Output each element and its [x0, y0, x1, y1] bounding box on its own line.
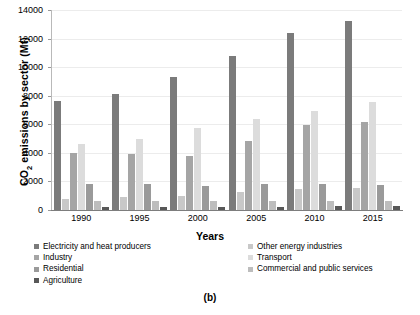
y-axis-tick-label: 12000 — [18, 34, 43, 44]
y-axis-tick-label: 6000 — [23, 119, 43, 129]
bar — [353, 188, 360, 210]
bar-group — [52, 10, 110, 210]
figure-caption: (b) — [0, 292, 420, 303]
bar — [128, 154, 135, 210]
bar — [178, 196, 185, 210]
bar — [78, 144, 85, 210]
legend-item-label: Transport — [257, 252, 292, 263]
legend-item: Industry — [34, 252, 248, 263]
x-axis-tick-label: 1995 — [110, 213, 168, 223]
y-axis-tick-label: 4000 — [23, 148, 43, 158]
x-axis-tick-label: 2005 — [227, 213, 285, 223]
bar — [112, 94, 119, 210]
bar — [377, 185, 384, 210]
bar — [170, 77, 177, 210]
bar — [393, 206, 400, 210]
bar — [120, 197, 127, 210]
legend-item-label: Agriculture — [43, 275, 82, 286]
bar — [229, 56, 236, 210]
legend-item: Electricity and heat producers — [34, 241, 248, 252]
x-axis-tick-label: 1990 — [52, 213, 110, 223]
bar — [86, 184, 93, 210]
legend-item-label: Industry — [43, 252, 72, 263]
legend-item: Agriculture — [34, 275, 248, 286]
bar — [303, 125, 310, 210]
y-axis-tick-label: 14000 — [18, 5, 43, 15]
bar — [269, 201, 276, 210]
bar — [54, 101, 61, 210]
x-axis-tick-label: 2000 — [169, 213, 227, 223]
legend-item-label: Residential — [43, 263, 84, 274]
y-axis-tick-label: 8000 — [23, 91, 43, 101]
bar — [385, 201, 392, 210]
legend-item: Transport — [248, 252, 373, 263]
bar — [194, 128, 201, 210]
bar — [210, 201, 217, 210]
bar-group — [344, 10, 402, 210]
y-axis-tick-label: 10000 — [18, 62, 43, 72]
bar-group — [227, 10, 285, 210]
legend-swatch-icon — [34, 255, 39, 260]
bar — [144, 184, 151, 210]
bar — [369, 102, 376, 210]
legend-swatch-icon — [248, 244, 253, 249]
legend-column-right: Other energy industriesTransportCommerci… — [248, 241, 373, 286]
x-axis-tick-labels: 199019952000200520102015 — [52, 213, 402, 223]
bar — [102, 207, 109, 210]
bar — [160, 207, 167, 210]
legend-item: Other energy industries — [248, 241, 373, 252]
bar-group — [110, 10, 168, 210]
x-axis-tick-label: 2015 — [344, 213, 402, 223]
bar — [70, 153, 77, 210]
bar — [319, 184, 326, 210]
bar-group — [285, 10, 343, 210]
y-axis-tick-labels: 02000400060008000100001200014000 — [0, 0, 48, 220]
bar — [261, 184, 268, 210]
legend-swatch-icon — [34, 244, 39, 249]
bar — [287, 33, 294, 210]
legend-column-left: Electricity and heat producersIndustryRe… — [34, 241, 248, 286]
bar — [62, 199, 69, 210]
bar — [277, 207, 284, 210]
legend-item: Commercial and public services — [248, 263, 373, 274]
bar — [245, 141, 252, 210]
bar-group — [169, 10, 227, 210]
bar — [186, 156, 193, 210]
bar — [136, 139, 143, 210]
bar — [295, 189, 302, 210]
bar — [327, 201, 334, 210]
legend-swatch-icon — [34, 267, 39, 272]
legend-item-label: Electricity and heat producers — [43, 241, 151, 252]
legend-swatch-icon — [248, 255, 253, 260]
bar — [202, 186, 209, 210]
legend-item: Residential — [34, 263, 248, 274]
bar — [152, 201, 159, 210]
bar — [94, 201, 101, 210]
figure: CO2 emissions by sector (Mt) 02000400060… — [0, 0, 420, 315]
bar — [345, 21, 352, 210]
legend: Electricity and heat producersIndustryRe… — [34, 241, 416, 286]
bar-groups — [52, 10, 402, 210]
legend-item-label: Commercial and public services — [257, 263, 373, 274]
bar — [237, 192, 244, 210]
bar — [361, 122, 368, 210]
y-axis-tick-label: 2000 — [23, 176, 43, 186]
x-axis-line — [51, 210, 403, 211]
bar — [253, 119, 260, 210]
bar — [311, 111, 318, 210]
bar — [335, 206, 342, 210]
y-axis-tick-label: 0 — [38, 205, 43, 215]
legend-item-label: Other energy industries — [257, 241, 342, 252]
x-axis-tick-label: 2010 — [285, 213, 343, 223]
legend-swatch-icon — [248, 267, 253, 272]
legend-swatch-icon — [34, 278, 39, 283]
bar — [218, 207, 225, 210]
